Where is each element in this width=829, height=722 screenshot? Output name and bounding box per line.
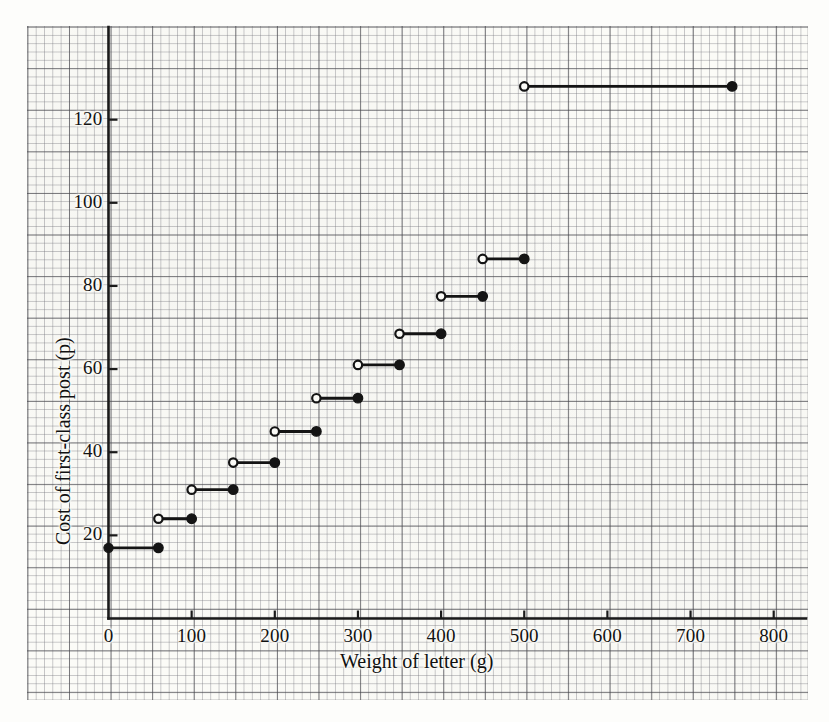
- x-tick-label: 400: [401, 625, 481, 647]
- step-open-endpoint: [187, 485, 195, 493]
- step-closed-endpoint: [727, 82, 737, 92]
- step-open-endpoint: [229, 458, 237, 466]
- step-closed-endpoint: [478, 292, 488, 302]
- step-open-endpoint: [354, 361, 362, 369]
- step-closed-endpoint: [187, 514, 197, 524]
- step-closed-endpoint: [270, 458, 280, 468]
- x-tick-label: 600: [567, 625, 647, 647]
- y-tick-label: 120: [0, 108, 103, 130]
- step-open-endpoint: [478, 255, 486, 263]
- step-open-endpoint: [395, 330, 403, 338]
- step-open-endpoint: [437, 292, 445, 300]
- step-closed-endpoint: [154, 543, 164, 553]
- x-tick-label: 0: [69, 625, 149, 647]
- y-tick-label: 100: [0, 191, 103, 213]
- step-closed-endpoint: [353, 393, 363, 403]
- x-tick-label: 500: [484, 625, 564, 647]
- x-axis-title: Weight of letter (g): [340, 650, 493, 673]
- step-series-group: [109, 86, 733, 547]
- step-closed-endpoint: [228, 485, 238, 495]
- axes-group: [109, 27, 807, 619]
- y-axis-title: Cost of first-class post (p): [52, 337, 75, 545]
- y-tick-label: 80: [0, 274, 103, 296]
- step-chart-plot: [0, 0, 829, 722]
- x-tick-label: 100: [152, 625, 232, 647]
- step-markers-group: [104, 82, 737, 553]
- step-open-endpoint: [520, 82, 528, 90]
- chart-page: 20406080100120 0100200300400500600700800…: [0, 0, 829, 722]
- x-tick-label: 700: [651, 625, 731, 647]
- step-closed-endpoint: [519, 254, 529, 264]
- axis-ticks-group: [109, 120, 774, 619]
- step-closed-endpoint: [312, 427, 322, 437]
- step-open-endpoint: [271, 427, 279, 435]
- x-tick-label: 300: [318, 625, 398, 647]
- x-tick-label: 200: [235, 625, 315, 647]
- step-closed-endpoint: [104, 543, 113, 552]
- x-tick-label: 800: [734, 625, 814, 647]
- step-closed-endpoint: [436, 329, 446, 339]
- step-closed-endpoint: [395, 360, 405, 370]
- step-open-endpoint: [312, 394, 320, 402]
- step-open-endpoint: [154, 515, 162, 523]
